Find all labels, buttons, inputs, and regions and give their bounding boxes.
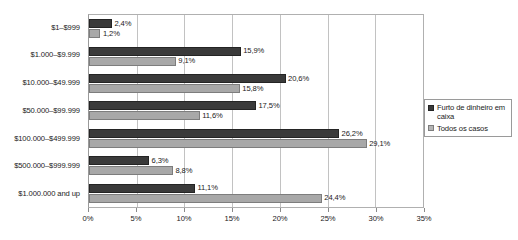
bar[interactable] — [89, 74, 286, 83]
axis-tick-mark — [280, 208, 281, 212]
bar-value-label: 11,1% — [197, 184, 217, 192]
bar[interactable] — [89, 57, 176, 66]
bar-row: 11,6% — [89, 111, 423, 120]
bar-value-label: 1,2% — [103, 30, 120, 38]
bar[interactable] — [89, 194, 322, 203]
axis-tick-mark — [376, 208, 377, 212]
bar[interactable] — [89, 166, 173, 175]
bar-value-label: 9,1% — [178, 57, 195, 65]
bar-value-label: 8,8% — [175, 167, 192, 175]
bar-value-label: 29,1% — [369, 140, 390, 148]
bar[interactable] — [89, 139, 367, 148]
axis-tick-label: 25% — [321, 214, 336, 223]
bar-row: 11,1% — [89, 184, 423, 193]
bar[interactable] — [89, 29, 100, 38]
bar-row: 26,2% — [89, 129, 423, 138]
axis-tick-mark — [328, 208, 329, 212]
bar-group: 26,2%29,1% — [89, 125, 423, 152]
axis-tick-mark — [424, 208, 425, 212]
category-label: $100.000–$499.999 — [0, 125, 84, 153]
category-axis: $1–$999$1.000–$9.999$10.000–$49.999$50.0… — [0, 14, 84, 208]
axis-tick-label: 0% — [83, 214, 94, 223]
bar-row: 6,3% — [89, 156, 423, 165]
category-label: $1–$999 — [0, 14, 84, 42]
bar-group: 11,1%24,4% — [89, 180, 423, 207]
bar-row: 24,4% — [89, 194, 423, 203]
bar-row: 15,8% — [89, 84, 423, 93]
legend-entry[interactable]: Todos os casos — [428, 124, 508, 133]
category-label: $500.000–$999.999 — [0, 153, 84, 181]
legend-entry[interactable]: Furto de dinheiro em caixa — [428, 103, 508, 122]
bar-value-label: 24,4% — [324, 194, 345, 202]
bar[interactable] — [89, 101, 256, 110]
bar-group: 20,6%15,8% — [89, 70, 423, 97]
legend-label: Todos os casos — [437, 124, 488, 133]
bar-row: 17,5% — [89, 101, 423, 110]
axis-tick-label: 20% — [273, 214, 288, 223]
chart-legend: Furto de dinheiro em caixaTodos os casos — [424, 99, 512, 137]
axis-tick-label: 5% — [131, 214, 142, 223]
bar-value-label: 26,2% — [342, 130, 363, 138]
legend-label: Furto de dinheiro em caixa — [437, 103, 508, 122]
axis-tick-label: 15% — [225, 214, 240, 223]
bar-row: 15,9% — [89, 47, 423, 56]
bar[interactable] — [89, 129, 339, 138]
bar[interactable] — [89, 111, 200, 120]
bar-group: 15,9%9,1% — [89, 42, 423, 69]
dark-square-icon — [428, 105, 434, 111]
axis-tick-label: 35% — [417, 214, 432, 223]
bar-row: 9,1% — [89, 57, 423, 66]
value-axis: 0%5%10%15%20%25%30%35% — [88, 208, 424, 230]
axis-tick-label: 10% — [177, 214, 192, 223]
bar-group: 2,4%1,2% — [89, 15, 423, 42]
bar-row: 1,2% — [89, 29, 423, 38]
bar-groups: 2,4%1,2%15,9%9,1%20,6%15,8%17,5%11,6%26,… — [89, 15, 423, 207]
axis-tick-label: 30% — [369, 214, 384, 223]
bar-value-label: 6,3% — [152, 157, 169, 165]
category-label: $10.000–$49.999 — [0, 69, 84, 97]
bar-group: 17,5%11,6% — [89, 97, 423, 124]
axis-tick-mark — [136, 208, 137, 212]
axis-tick-mark — [184, 208, 185, 212]
bar[interactable] — [89, 156, 149, 165]
bar-row: 20,6% — [89, 74, 423, 83]
bar-row: 8,8% — [89, 166, 423, 175]
axis-tick-mark — [232, 208, 233, 212]
bar-value-label: 15,9% — [243, 47, 264, 55]
bar[interactable] — [89, 47, 241, 56]
bar[interactable] — [89, 184, 195, 193]
light-square-icon — [428, 125, 434, 131]
bar-value-label: 11,6% — [202, 112, 222, 120]
category-label: $1.000.000 and up — [0, 180, 84, 208]
bar-chart: $1–$999$1.000–$9.999$10.000–$49.999$50.0… — [0, 0, 518, 240]
category-label: $1.000–$9.999 — [0, 42, 84, 70]
bar-group: 6,3%8,8% — [89, 152, 423, 179]
category-label: $50.000–$99.999 — [0, 97, 84, 125]
bar-row: 2,4% — [89, 19, 423, 28]
bar-value-label: 15,8% — [242, 85, 263, 93]
bar[interactable] — [89, 19, 112, 28]
plot-area: 2,4%1,2%15,9%9,1%20,6%15,8%17,5%11,6%26,… — [88, 14, 424, 208]
axis-tick-mark — [88, 208, 89, 212]
bar-value-label: 20,6% — [288, 75, 309, 83]
bar[interactable] — [89, 84, 240, 93]
bar-value-label: 2,4% — [114, 20, 131, 28]
bar-row: 29,1% — [89, 139, 423, 148]
bar-value-label: 17,5% — [259, 102, 280, 110]
